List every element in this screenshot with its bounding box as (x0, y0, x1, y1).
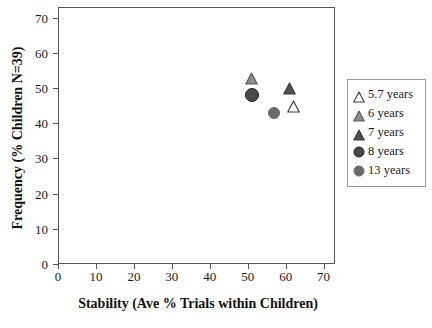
legend-marker-icon (352, 126, 366, 140)
legend-item-label: 7 years (368, 126, 404, 139)
legend-item-label: 8 years (368, 145, 404, 158)
legend-item-label: 6 years (368, 107, 404, 120)
legend-item[interactable]: 7 years (352, 123, 422, 142)
x-axis-tick-label: 70 (304, 270, 344, 283)
x-axis-tick-label: 20 (114, 270, 154, 283)
y-axis-title: Frequency (% Children N=39) (8, 8, 28, 268)
data-point-marker (245, 88, 259, 102)
x-axis-tick-label: 60 (266, 270, 306, 283)
x-axis-title: Stability (Ave % Trials within Children) (38, 296, 358, 312)
data-point-marker (283, 81, 296, 94)
x-axis-tick-label: 40 (190, 270, 230, 283)
y-axis-title-wrapper: Frequency (% Children N=39) (8, 8, 28, 268)
legend-marker-icon (352, 107, 366, 121)
legend-item[interactable]: 13 years (352, 161, 422, 180)
legend: 5.7 years6 years7 years8 years13 years (347, 79, 426, 187)
legend-marker-icon (352, 145, 366, 159)
legend-marker-icon (352, 88, 366, 102)
legend-item[interactable]: 5.7 years (352, 85, 422, 104)
x-axis-tick-label: 10 (76, 270, 116, 283)
legend-marker-icon (352, 164, 366, 178)
x-axis-tick-label: 30 (152, 270, 192, 283)
data-point-marker (245, 71, 258, 84)
legend-item-label: 13 years (368, 164, 410, 177)
legend-item[interactable]: 6 years (352, 104, 422, 123)
scatter-plot-figure: 010203040506070010203040506070 Stability… (0, 0, 432, 328)
data-point-marker (287, 99, 300, 112)
plot-data-area (58, 7, 335, 264)
x-axis-tick-label: 50 (228, 270, 268, 283)
legend-item-label: 5.7 years (368, 88, 413, 101)
data-point-marker (268, 107, 280, 119)
legend-item[interactable]: 8 years (352, 142, 422, 161)
y-axis-tick (53, 264, 58, 265)
